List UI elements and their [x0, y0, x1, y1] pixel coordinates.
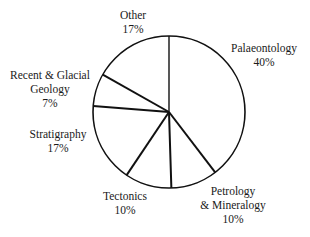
- slice-divider: [169, 112, 215, 172]
- label-palaeontology-pct: 40%: [231, 55, 297, 69]
- label-stratigraphy-name: Stratigraphy: [30, 127, 87, 141]
- label-recent-pct: 7%: [10, 96, 90, 110]
- label-palaeontology-name: Palaeontology: [231, 41, 297, 55]
- label-recent-line2: Geology: [10, 82, 90, 96]
- slice-divider: [103, 75, 169, 112]
- label-stratigraphy: Stratigraphy 17%: [30, 127, 87, 155]
- pie-chart: Other 17% Palaeontology 40% Recent & Gla…: [0, 0, 310, 237]
- label-petrology-line2: & Mineralogy: [200, 198, 265, 212]
- label-petrology-line1: Petrology: [200, 184, 265, 198]
- label-petrology-pct: 10%: [200, 212, 265, 226]
- label-recent-line1: Recent & Glacial: [10, 68, 90, 82]
- slice-divider: [93, 106, 169, 112]
- label-stratigraphy-pct: 17%: [30, 141, 87, 155]
- slice-divider: [127, 112, 169, 175]
- label-tectonics-name: Tectonics: [103, 189, 147, 203]
- label-other-pct: 17%: [120, 22, 146, 36]
- label-palaeontology: Palaeontology 40%: [231, 41, 297, 69]
- label-tectonics: Tectonics 10%: [103, 189, 147, 217]
- label-other-name: Other: [120, 8, 146, 22]
- slice-divider: [169, 112, 171, 188]
- label-tectonics-pct: 10%: [103, 203, 147, 217]
- label-petrology-mineralogy: Petrology & Mineralogy 10%: [200, 184, 265, 226]
- label-recent-glacial-geology: Recent & Glacial Geology 7%: [10, 68, 90, 110]
- label-other: Other 17%: [120, 8, 146, 36]
